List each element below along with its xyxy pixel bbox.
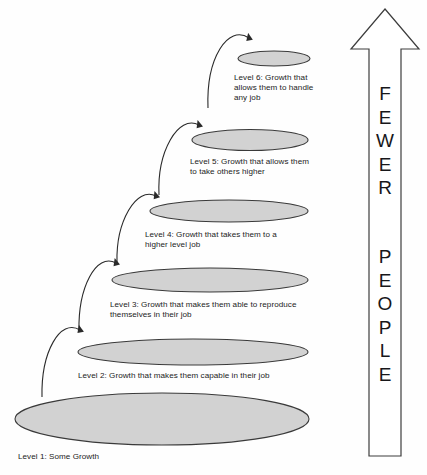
arrow-label-fewer: F E W E R: [370, 82, 400, 200]
level-6-ellipse: [238, 51, 310, 66]
arrow-level3-to-level4: [117, 194, 156, 262]
level-2-ellipse: [78, 339, 308, 365]
level-4-label: Level 4: Growth that takes them to a hig…: [145, 230, 277, 250]
arrow-level2-to-level3: [79, 261, 116, 331]
fewer-people-arrow-icon: [351, 9, 419, 456]
arrow-level1-to-level2: [42, 328, 80, 397]
level-3-label: Level 3: Growth that makes them able to …: [110, 300, 296, 320]
arrow-label-people: P E O P L E: [370, 245, 400, 386]
level-1-label: Level 1: Some Growth: [18, 452, 99, 462]
level-6-label: Level 6: Growth that allows them to hand…: [234, 73, 313, 104]
level-1-ellipse: [15, 393, 309, 445]
level-5-ellipse: [192, 130, 308, 151]
level-3-ellipse: [112, 268, 308, 292]
level-5-label: Level 5: Growth that allows them to take…: [190, 157, 309, 177]
level-4-ellipse: [150, 200, 308, 222]
level-2-label: Level 2: Growth that makes them capable …: [78, 371, 270, 381]
diagram-canvas: Level 1: Some Growth Level 2: Growth tha…: [0, 0, 427, 475]
